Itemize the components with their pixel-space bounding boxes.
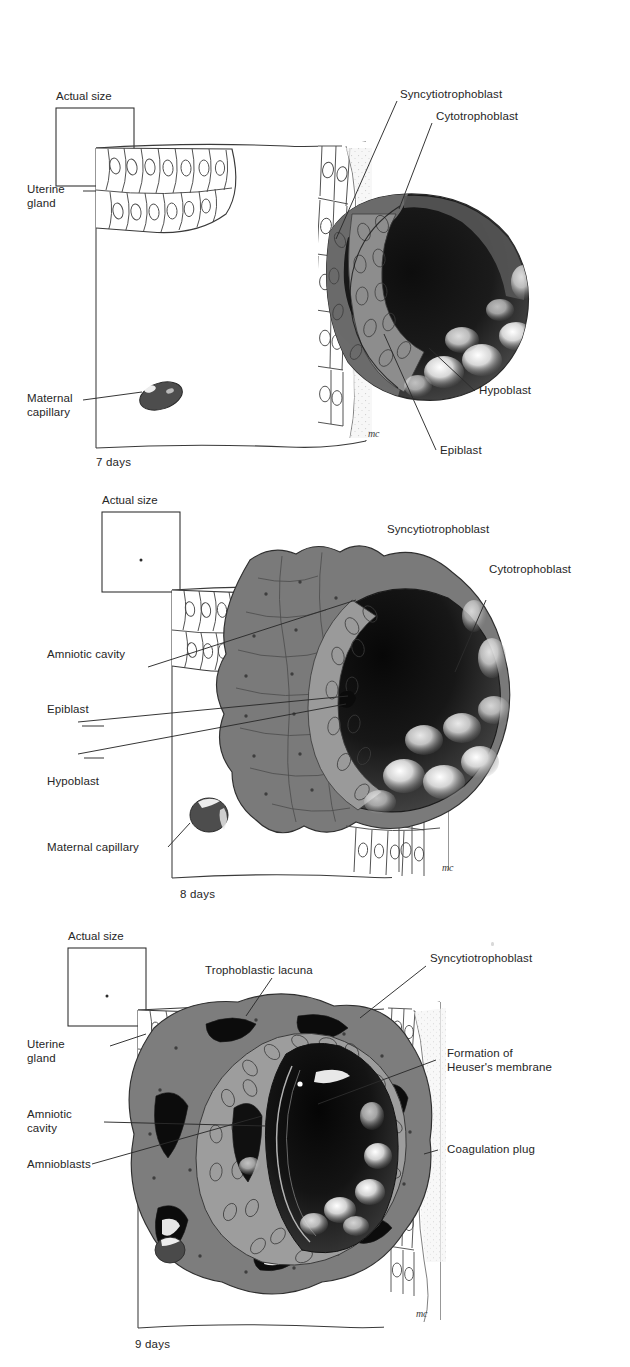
actual-size-box-8 — [102, 512, 180, 592]
label-amniotic-cavity-9: Amniotic cavity — [27, 1108, 72, 1135]
day-caption-9: 9 days — [135, 1338, 170, 1350]
label-syncytiotrophoblast-8: Syncytiotrophoblast — [387, 523, 489, 537]
actual-size-label-8: Actual size — [102, 494, 158, 506]
label-cytotrophoblast-7: Cytotrophoblast — [436, 110, 518, 124]
panel-9-days: Actual size Uterine gland Amniotic cavit… — [0, 920, 630, 1367]
label-amnioblasts-9: Amnioblasts — [27, 1158, 91, 1172]
label-cytotrophoblast-8: Cytotrophoblast — [489, 563, 571, 577]
uterine-gland-7 — [90, 140, 250, 240]
label-hypoblast-8: Hypoblast — [47, 775, 99, 789]
blastocyst-8 — [216, 546, 510, 833]
panel-8-days-artwork — [0, 490, 630, 920]
maternal-capillary-7 — [136, 377, 186, 415]
panel-7-days: Actual size Uterine gland Maternal capil… — [0, 0, 630, 490]
label-syncytiotrophoblast-9: Syncytiotrophoblast — [430, 952, 532, 966]
label-hypoblast-7: Hypoblast — [479, 384, 531, 398]
day-caption-7: 7 days — [96, 456, 131, 468]
maternal-capillary-8 — [190, 798, 228, 832]
label-amniotic-cavity-8: Amniotic cavity — [47, 648, 125, 662]
label-uterine-gland-9: Uterine gland — [27, 1038, 65, 1065]
artist-mark-7: mc — [368, 428, 379, 439]
panel-8-days: Actual size Amniotic cavity Epiblast Hyp… — [0, 490, 630, 920]
actual-size-label-9: Actual size — [68, 930, 124, 942]
scan-speck — [491, 942, 494, 946]
panel-9-days-artwork — [0, 920, 630, 1367]
maternal-capillary-9 — [155, 1237, 185, 1263]
label-uterine-gland-7: Uterine gland — [27, 183, 65, 210]
label-maternal-capillary-7: Maternal capillary — [27, 392, 73, 419]
artist-mark-9: mc — [416, 1308, 427, 1319]
label-maternal-capillary-8: Maternal capillary — [47, 841, 139, 855]
label-epiblast-7: Epiblast — [440, 444, 482, 458]
label-coagulation-plug-9: Coagulation plug — [447, 1143, 535, 1157]
day-caption-8: 8 days — [180, 888, 215, 900]
implantation-figure: Actual size Uterine gland Maternal capil… — [0, 0, 630, 1367]
label-syncytiotrophoblast-7: Syncytiotrophoblast — [400, 88, 502, 102]
label-heusers-membrane-9: Formation of Heuser's membrane — [447, 1047, 552, 1074]
artist-mark-8: mc — [442, 862, 453, 873]
panel-7-days-artwork — [0, 0, 630, 490]
label-trophoblastic-lacuna-9: Trophoblastic lacuna — [205, 964, 313, 978]
actual-size-box-9 — [68, 948, 146, 1026]
actual-size-label-7: Actual size — [56, 90, 112, 102]
label-epiblast-8: Epiblast — [47, 703, 89, 717]
